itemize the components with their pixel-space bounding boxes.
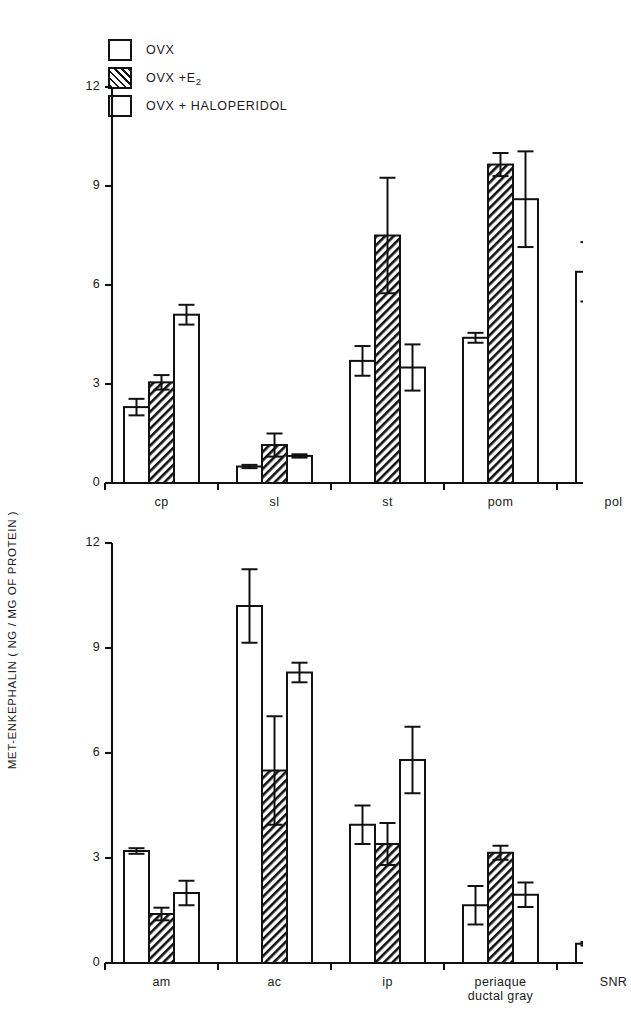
x-axis-group-label: sl — [215, 495, 335, 509]
y-tick-label: 0 — [74, 475, 100, 489]
y-tick-label: 6 — [74, 745, 100, 759]
x-axis-group-label-line: pom — [441, 495, 561, 509]
chart-panel-bottom — [0, 530, 583, 1022]
x-axis-group-label: cp — [102, 495, 222, 509]
x-axis-group-label: ip — [328, 975, 448, 989]
x-axis-group-label-line: ductal gray — [441, 989, 561, 1003]
x-axis-group-label-line: SNR — [554, 975, 631, 989]
x-axis-group-label-line: cp — [102, 495, 222, 509]
x-axis-group-label-line: am — [102, 975, 222, 989]
x-axis-group-label: st — [328, 495, 448, 509]
chart-panel-top — [0, 0, 583, 512]
x-axis-group-label-line: ac — [215, 975, 335, 989]
x-axis-group-label-line: st — [328, 495, 448, 509]
x-axis-group-label: periaqueductal gray — [441, 975, 561, 1003]
x-axis-group-label: am — [102, 975, 222, 989]
x-axis-group-label: SNR — [554, 975, 631, 989]
x-axis-group-label: pom — [441, 495, 561, 509]
x-axis-group-label-line: pol — [554, 495, 631, 509]
y-tick-label: 0 — [74, 955, 100, 969]
x-axis-group-label: pol — [554, 495, 631, 509]
y-tick-label: 3 — [74, 376, 100, 390]
x-axis-group-label-line: periaque — [441, 975, 561, 989]
x-axis-group-label-line: ip — [328, 975, 448, 989]
y-tick-label: 12 — [74, 535, 100, 549]
x-axis-group-label-line: sl — [215, 495, 335, 509]
y-tick-label: 9 — [74, 178, 100, 192]
y-tick-label: 3 — [74, 850, 100, 864]
x-axis-group-label: ac — [215, 975, 335, 989]
y-tick-label: 12 — [74, 79, 100, 93]
y-tick-label: 6 — [74, 277, 100, 291]
y-tick-label: 9 — [74, 640, 100, 654]
